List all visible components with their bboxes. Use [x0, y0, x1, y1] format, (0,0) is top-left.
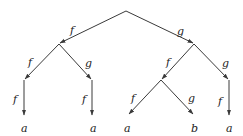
edge-label: f [165, 56, 172, 69]
edge-label: f [81, 93, 88, 106]
leaf-node: a [90, 122, 97, 135]
leaf-node: a [124, 122, 131, 135]
edge-label: f [27, 56, 34, 69]
leaf-node: a [226, 122, 233, 135]
edge-label: f [217, 95, 224, 108]
edge-label: f [12, 93, 19, 106]
edge-label: g [177, 25, 184, 38]
leaf-node: b [191, 122, 198, 135]
tree-diagram: f g f g f f f g f g f a a a b a [0, 0, 243, 136]
edge-label: g [222, 57, 229, 70]
edge-label: f [130, 92, 137, 105]
edge-label: g [188, 92, 195, 105]
edge-label: g [85, 57, 92, 70]
edge-label: f [69, 24, 76, 37]
leaf-node: a [21, 122, 28, 135]
